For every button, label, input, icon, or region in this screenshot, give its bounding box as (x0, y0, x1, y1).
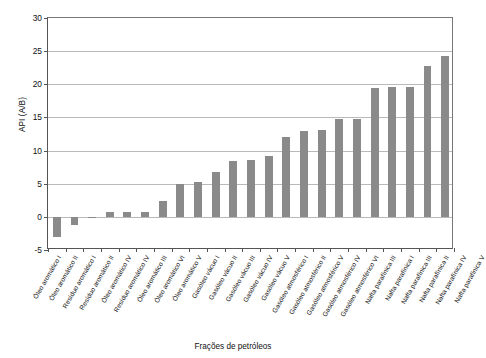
y-axis-tick-label: 10 (33, 146, 42, 156)
bar (282, 137, 290, 217)
y-axis-tick-label: 30 (33, 13, 42, 23)
x-axis-tickmark (366, 248, 367, 252)
y-axis-tick-label: 5 (37, 179, 42, 189)
bar (353, 119, 361, 216)
x-axis-tickmark (242, 248, 243, 252)
x-axis-tickmark (436, 248, 437, 252)
bar (53, 217, 61, 237)
x-axis-tickmark (83, 248, 84, 252)
bar (318, 130, 326, 217)
x-axis-tickmark (348, 248, 349, 252)
bar (88, 217, 96, 218)
x-axis-tickmark (260, 248, 261, 252)
bar (141, 212, 149, 217)
bar (176, 184, 184, 217)
y-axis-tick-label: 15 (33, 112, 42, 122)
bar (229, 161, 237, 217)
x-axis-tickmark (101, 248, 102, 252)
x-axis-tickmark (119, 248, 120, 252)
y-axis-tick-label: 25 (33, 46, 42, 56)
x-axis-tickmark (419, 248, 420, 252)
x-axis-tickmark (277, 248, 278, 252)
x-axis-tickmark (383, 248, 384, 252)
bar (247, 160, 255, 217)
bar (106, 212, 114, 217)
bar (406, 87, 414, 217)
bar (388, 87, 396, 217)
bar (123, 212, 131, 217)
y-axis-tick-label: -5 (35, 245, 42, 255)
bar (71, 217, 79, 226)
x-axis-title: Frações de petróleos (0, 342, 466, 351)
bar (300, 131, 308, 217)
x-axis-tickmark (136, 248, 137, 252)
bar (424, 66, 432, 217)
x-axis-tickmark (154, 248, 155, 252)
y-axis-tick-label: 20 (33, 79, 42, 89)
bar (441, 56, 449, 216)
bar (265, 156, 273, 217)
bar (335, 119, 343, 216)
y-axis-title: API (A/B) (18, 65, 27, 165)
x-axis-tickmark (225, 248, 226, 252)
x-axis-tickmark (295, 248, 296, 252)
x-axis-tickmark (66, 248, 67, 252)
bar (371, 88, 379, 217)
bar (212, 172, 220, 217)
bar (194, 182, 202, 216)
bar-series (48, 18, 452, 248)
x-axis-tickmark (454, 248, 455, 252)
x-axis-tickmark (330, 248, 331, 252)
plot-area: 302520151050-5 (47, 17, 453, 249)
bar (159, 201, 167, 217)
x-axis-tickmark (189, 248, 190, 252)
x-axis-tickmark (172, 248, 173, 252)
x-axis-tickmark (313, 248, 314, 252)
y-axis-tick-label: 0 (37, 212, 42, 222)
x-axis-tick-labels: Óleo aromático IÓleo aromático IIResíduo… (47, 252, 453, 338)
x-axis-tickmark (401, 248, 402, 252)
x-axis-tickmark (207, 248, 208, 252)
x-axis-tickmark (48, 248, 49, 252)
